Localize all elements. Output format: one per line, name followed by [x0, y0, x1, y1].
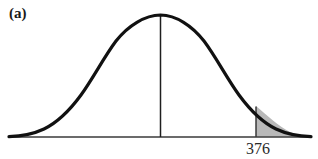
distribution-figure: (a) 376	[0, 0, 318, 159]
normal-curve-plot	[0, 0, 318, 159]
x-tick-label-376: 376	[238, 141, 278, 157]
